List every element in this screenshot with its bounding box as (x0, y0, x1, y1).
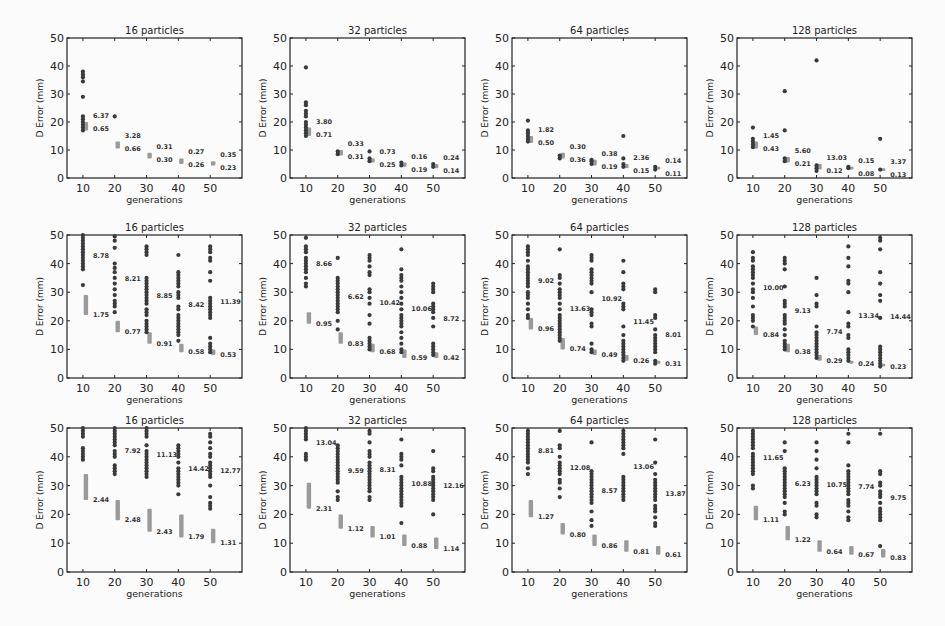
chart-panel: 64 particles010203040501020304050generat… (480, 222, 687, 405)
annotation-lower: 0.23 (890, 363, 906, 371)
x-axis-label: generations (571, 394, 628, 405)
chart-panel: 64 particles010203040501020304050generat… (480, 415, 687, 599)
dark-data-point (113, 310, 117, 314)
x-tick-label: 50 (426, 382, 440, 395)
x-tick-label: 10 (746, 576, 760, 589)
dark-data-point (751, 256, 755, 260)
annotation-lower: 0.65 (93, 125, 110, 133)
dark-data-point (621, 429, 625, 433)
annotation-lower: 0.13 (890, 171, 906, 179)
dark-data-point (814, 475, 818, 479)
x-axis-label: generations (796, 194, 853, 205)
y-tick-label: 10 (495, 537, 509, 550)
y-tick-label: 0 (280, 566, 287, 579)
y-tick-label: 20 (720, 508, 734, 521)
x-tick-label: 20 (778, 182, 792, 195)
dark-data-point (399, 437, 403, 441)
light-range-marker (849, 546, 853, 555)
dark-data-point (621, 475, 625, 479)
dark-data-point (304, 244, 308, 248)
dark-data-point (653, 287, 657, 291)
chart-title: 128 particles (792, 222, 857, 233)
y-tick-label: 50 (495, 229, 509, 242)
dark-data-point (81, 446, 85, 450)
y-axis-label: D Error (mm) (258, 277, 268, 336)
annotation-upper: 10.42 (380, 299, 401, 307)
annotation-upper: 11.45 (633, 318, 654, 326)
dark-data-point (558, 429, 562, 433)
annotation-upper: 0.31 (157, 143, 174, 151)
annotation-lower: 1.11 (763, 516, 780, 524)
y-tick-label: 40 (50, 451, 64, 464)
annotation-lower: 0.77 (125, 328, 141, 336)
annotation-upper: 3.80 (316, 118, 333, 126)
dark-data-point (367, 287, 371, 291)
annotation-upper: 8.78 (93, 252, 110, 260)
x-tick-label: 10 (521, 576, 535, 589)
annotation-upper: 11.39 (220, 298, 241, 306)
x-tick-label: 20 (553, 182, 567, 195)
dark-data-point (367, 495, 371, 499)
y-tick-label: 30 (50, 286, 64, 299)
x-tick-label: 20 (108, 382, 122, 395)
x-axis-label: generations (349, 194, 406, 205)
y-tick-label: 10 (273, 343, 287, 356)
dark-data-point (304, 120, 308, 124)
y-axis-label: D Error (mm) (35, 277, 45, 336)
dark-data-point (621, 156, 625, 160)
annotation-upper: 1.45 (763, 132, 780, 140)
y-tick-label: 30 (273, 286, 287, 299)
dark-data-point (751, 324, 755, 328)
y-tick-label: 50 (273, 229, 287, 242)
dark-data-point (814, 302, 818, 306)
y-axis-label: D Error (mm) (258, 470, 268, 529)
annotation-lower: 0.15 (633, 167, 650, 175)
dark-data-point (526, 313, 530, 317)
dark-data-point (336, 319, 340, 323)
dark-data-point (526, 466, 530, 470)
dark-data-point (526, 472, 530, 476)
annotation-upper: 8.66 (316, 260, 333, 268)
dark-data-point (751, 452, 755, 456)
annotation-upper: 12.08 (570, 464, 591, 472)
annotation-upper: 8.01 (665, 331, 682, 339)
dark-data-point (814, 440, 818, 444)
dark-data-point (113, 266, 117, 270)
x-tick-label: 50 (648, 182, 662, 195)
annotation-lower: 0.21 (795, 160, 812, 168)
annotation-lower: 0.38 (795, 348, 812, 356)
dark-data-point (589, 267, 593, 271)
light-range-marker (529, 500, 533, 517)
y-tick-label: 10 (50, 144, 64, 157)
x-axis-label: generations (796, 394, 853, 405)
x-tick-label: 20 (553, 576, 567, 589)
dark-data-point (431, 316, 435, 320)
y-tick-label: 50 (50, 32, 64, 45)
dark-data-point (304, 256, 308, 260)
y-tick-label: 0 (502, 372, 509, 385)
dark-data-point (783, 509, 787, 513)
dark-data-point (431, 324, 435, 328)
dark-data-point (208, 501, 212, 505)
dark-data-point (367, 270, 371, 274)
annotation-lower: 0.19 (411, 166, 428, 174)
x-tick-label: 20 (778, 576, 792, 589)
y-tick-label: 40 (720, 451, 734, 464)
dark-data-point (751, 296, 755, 300)
annotation-lower: 0.86 (602, 542, 619, 550)
light-range-marker (754, 506, 758, 520)
dark-data-point (846, 463, 850, 467)
dark-data-point (846, 515, 850, 519)
plot-frame (512, 235, 687, 378)
dark-data-point (783, 313, 787, 317)
light-range-marker (370, 526, 374, 538)
dark-data-point (783, 267, 787, 271)
dark-data-point (367, 296, 371, 300)
x-axis-label: generations (796, 588, 853, 599)
dark-data-point (814, 163, 818, 167)
dark-data-point (814, 330, 818, 334)
y-tick-label: 10 (720, 537, 734, 550)
annotation-upper: 0.24 (443, 154, 460, 162)
annotation-lower: 0.81 (633, 548, 650, 556)
annotation-lower: 0.30 (157, 156, 174, 164)
